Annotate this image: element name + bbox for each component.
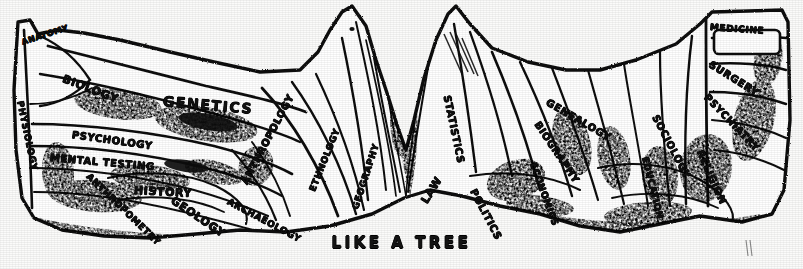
figure-caption: LIKE A TREE (0, 234, 803, 252)
tree-of-knowledge-figure: ANATOMY PHYSIOLOGY BIOLOGY GENETICS PSYC… (0, 0, 803, 269)
engraving-artwork (0, 0, 803, 269)
